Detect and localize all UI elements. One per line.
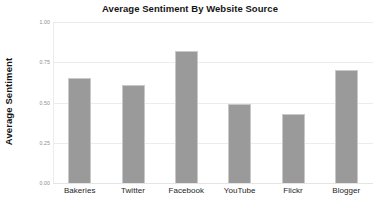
plot-area — [53, 22, 373, 183]
y-axis-title: Average Sentiment — [0, 0, 18, 203]
y-tick-label: 1.00 — [24, 19, 50, 25]
bars-group — [53, 22, 373, 183]
y-axis-title-label: Average Sentiment — [4, 58, 15, 145]
y-tick-label: 0.75 — [24, 59, 50, 65]
x-axis-tick-labels: BakeriesTwitterFacebookYouTubeFlickrBlog… — [53, 186, 373, 202]
x-tick-label-blogger: Blogger — [311, 186, 380, 195]
bar-blogger[interactable] — [335, 70, 358, 183]
gridline-0.00 — [53, 183, 373, 184]
bar-youtube[interactable] — [228, 104, 251, 183]
bar-chart: Average Sentiment By Website Source Aver… — [0, 0, 380, 203]
bar-flickr[interactable] — [282, 114, 305, 183]
y-axis-tick-labels: 1.000.750.500.250.00 — [22, 22, 50, 183]
y-tick-label: 0.25 — [24, 140, 50, 146]
bar-twitter[interactable] — [122, 85, 145, 183]
bar-bakeries[interactable] — [68, 78, 91, 183]
bar-facebook[interactable] — [175, 51, 198, 183]
y-tick-label: 0.50 — [24, 100, 50, 106]
chart-title: Average Sentiment By Website Source — [0, 3, 380, 14]
